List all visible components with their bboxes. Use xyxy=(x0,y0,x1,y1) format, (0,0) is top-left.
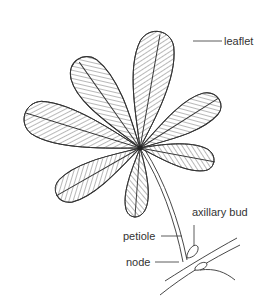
leaflet-junction xyxy=(138,146,143,151)
label-node: node xyxy=(126,256,150,268)
label-leaflet: leaflet xyxy=(224,35,253,47)
leaflets xyxy=(19,28,227,219)
label-petiole: petiole xyxy=(123,230,155,242)
label-axillary-bud: axillary bud xyxy=(192,206,248,218)
lower-bud xyxy=(195,262,207,270)
axillary-bud xyxy=(187,245,198,258)
